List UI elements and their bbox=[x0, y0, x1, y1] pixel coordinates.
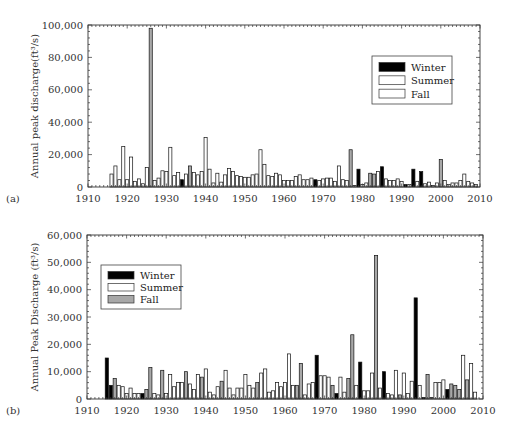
y-tick-label: 0 bbox=[77, 182, 83, 193]
bar-2007 bbox=[470, 363, 473, 399]
bar-1936 bbox=[188, 384, 191, 399]
plot-frame bbox=[88, 25, 480, 187]
bar-1994 bbox=[418, 385, 421, 399]
legend-label-winter: Winter bbox=[411, 62, 446, 73]
bar-1955 bbox=[263, 164, 266, 187]
legend-swatch-winter bbox=[379, 63, 405, 72]
bar-1929 bbox=[161, 171, 164, 187]
bar-1935 bbox=[184, 372, 187, 399]
x-tick-label: 1910 bbox=[74, 405, 99, 416]
x-tick-label: 2000 bbox=[428, 193, 453, 204]
y-tick-label: 40,000 bbox=[47, 284, 82, 295]
bar-1964 bbox=[299, 363, 302, 399]
bar-1978 bbox=[355, 385, 358, 399]
bar-1934 bbox=[180, 383, 183, 399]
legend-swatch-fall bbox=[108, 296, 134, 304]
bar-1961 bbox=[287, 354, 290, 399]
legend-swatch-fall bbox=[379, 89, 405, 98]
bar-1958 bbox=[276, 383, 279, 399]
bar-1967 bbox=[311, 383, 314, 399]
y-axis-title: Annual peak discharge(ft³/s) bbox=[29, 34, 40, 179]
y-tick-label: 0 bbox=[76, 394, 82, 405]
legend-swatch-summer bbox=[379, 76, 405, 85]
y-tick-label: 30,000 bbox=[47, 312, 82, 323]
x-tick-label: 2010 bbox=[470, 405, 495, 416]
bar-1950 bbox=[244, 374, 247, 399]
y-tick-label: 60,000 bbox=[48, 84, 83, 95]
x-tick-label: 1950 bbox=[232, 193, 257, 204]
bar-1985 bbox=[382, 372, 385, 399]
y-tick-label: 10,000 bbox=[47, 366, 82, 377]
bar-1917 bbox=[114, 166, 117, 187]
x-tick-label: 1960 bbox=[272, 405, 297, 416]
figure: 020,00040,00060,00080,000100,00019101920… bbox=[0, 0, 518, 427]
bar-1992 bbox=[410, 381, 413, 399]
bar-1931 bbox=[169, 374, 172, 399]
legend-swatch-winter bbox=[108, 272, 134, 280]
bar-1916 bbox=[109, 385, 112, 399]
bar-1990 bbox=[402, 373, 405, 399]
legend-label-winter: Winter bbox=[140, 270, 175, 281]
x-tick-label: 1910 bbox=[75, 193, 100, 204]
bar-1963 bbox=[295, 385, 298, 399]
bar-1941 bbox=[208, 169, 211, 187]
y-tick-label: 20,000 bbox=[48, 149, 83, 160]
bar-1966 bbox=[307, 384, 310, 399]
bar-1933 bbox=[177, 172, 180, 187]
x-tick-label: 2000 bbox=[431, 405, 456, 416]
legend: WinterSummerFall bbox=[372, 56, 454, 104]
bar-1917 bbox=[113, 379, 116, 400]
x-tick-label: 1970 bbox=[312, 405, 337, 416]
bar-1993 bbox=[412, 169, 415, 187]
bar-1940 bbox=[204, 369, 207, 399]
bar-1972 bbox=[331, 385, 334, 399]
x-tick-label: 1980 bbox=[351, 405, 376, 416]
bar-1954 bbox=[259, 150, 262, 187]
bar-1974 bbox=[339, 377, 342, 399]
bar-1921 bbox=[130, 157, 133, 187]
bar-1968 bbox=[315, 355, 318, 399]
x-tick-label: 2010 bbox=[467, 193, 492, 204]
bar-1993 bbox=[414, 298, 417, 399]
bar-1988 bbox=[394, 370, 397, 399]
bar-2000 bbox=[439, 159, 442, 187]
bar-1995 bbox=[420, 172, 423, 187]
bar-1958 bbox=[275, 173, 278, 187]
bar-2003 bbox=[454, 385, 457, 399]
panel-label: (a) bbox=[6, 193, 20, 204]
bar-1929 bbox=[161, 370, 164, 399]
y-tick-label: 80,000 bbox=[48, 52, 83, 63]
bar-2002 bbox=[450, 384, 453, 399]
bar-1915 bbox=[105, 358, 108, 399]
bar-1946 bbox=[228, 168, 231, 187]
y-tick-label: 50,000 bbox=[47, 257, 82, 268]
plot-frame bbox=[87, 235, 483, 399]
bar-1939 bbox=[200, 377, 203, 399]
bar-1977 bbox=[349, 150, 352, 187]
bar-1945 bbox=[224, 370, 227, 399]
x-tick-label: 1930 bbox=[153, 405, 178, 416]
bar-1925 bbox=[145, 168, 148, 187]
bar-1983 bbox=[375, 256, 378, 400]
legend-label-fall: Fall bbox=[140, 294, 159, 305]
chart-panel-b: 010,00020,00030,00040,00050,00060,000191… bbox=[6, 230, 496, 417]
y-tick-label: 100,000 bbox=[42, 20, 83, 31]
x-tick-label: 1980 bbox=[350, 193, 375, 204]
bar-1938 bbox=[196, 374, 199, 399]
bar-1944 bbox=[220, 381, 223, 399]
x-tick-label: 1940 bbox=[193, 405, 218, 416]
y-tick-label: 60,000 bbox=[47, 230, 82, 241]
legend-swatch-summer bbox=[108, 284, 134, 292]
x-tick-label: 1930 bbox=[154, 193, 179, 204]
x-tick-label: 1950 bbox=[233, 405, 258, 416]
x-tick-label: 1920 bbox=[114, 193, 139, 204]
axis-ticks bbox=[87, 235, 483, 399]
bar-1931 bbox=[169, 147, 172, 187]
bar-1953 bbox=[256, 383, 259, 399]
x-tick-label: 1940 bbox=[193, 193, 218, 204]
chart-panel-a: 020,00040,00060,00080,000100,00019101920… bbox=[6, 20, 493, 205]
bar-1955 bbox=[264, 369, 267, 399]
bar-1926 bbox=[149, 28, 152, 187]
bar-1974 bbox=[337, 166, 340, 187]
y-tick-label: 40,000 bbox=[48, 117, 83, 128]
